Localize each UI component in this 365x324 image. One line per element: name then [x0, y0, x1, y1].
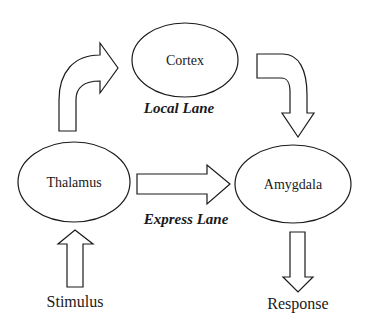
thalamus-label: Thalamus — [46, 175, 101, 190]
thalamus-to-cortex-arrow — [59, 43, 118, 131]
cortex-to-amygdala-arrow — [257, 54, 314, 137]
stimulus-label: Stimulus — [47, 293, 104, 310]
fear-pathway-diagram: Cortex Local Lane Thalamus Express Lane … — [0, 0, 365, 324]
thalamus-node: Thalamus — [18, 142, 130, 222]
cortex-label: Cortex — [166, 53, 204, 68]
amygdala-label: Amygdala — [264, 177, 323, 192]
cortex-node: Cortex — [132, 23, 238, 97]
amygdala-node: Amygdala — [235, 145, 351, 223]
stimulus-to-thalamus-arrow — [58, 230, 93, 287]
thalamus-to-amygdala-arrow — [137, 165, 230, 204]
express-lane-label: Express Lane — [143, 211, 229, 227]
amygdala-to-response-arrow — [283, 232, 313, 292]
local-lane-label: Local Lane — [143, 100, 215, 116]
response-label: Response — [267, 295, 328, 313]
